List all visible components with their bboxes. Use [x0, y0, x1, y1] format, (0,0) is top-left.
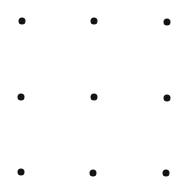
grid-dot	[163, 170, 170, 177]
grid-dot	[163, 94, 170, 101]
grid-dot	[90, 18, 97, 25]
grid-dot	[90, 94, 97, 101]
grid-dot	[18, 18, 25, 25]
grid-dot	[18, 93, 25, 100]
grid-dot	[90, 169, 97, 176]
dot-grid	[0, 0, 184, 189]
grid-dot	[17, 169, 24, 176]
grid-dot	[163, 19, 170, 26]
